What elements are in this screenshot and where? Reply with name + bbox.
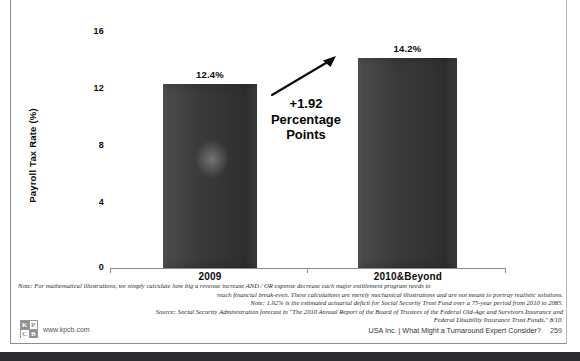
footer-page-number: 259 (550, 326, 562, 335)
y-tick-label-12: 12 (78, 83, 104, 93)
footer-brand[interactable]: K P C B www.kpcb.com (20, 320, 90, 338)
x-category-label-2009: 2009 (160, 271, 260, 282)
x-axis-tick-left (110, 268, 111, 273)
x-axis-tick-middle (307, 268, 308, 273)
kpcb-logo-icon: K P C B (20, 320, 38, 338)
footer-url-link[interactable]: www.kpcb.com (43, 326, 90, 333)
bar-value-2009: 12.4% (163, 69, 257, 80)
y-tick-label-4: 4 (78, 197, 104, 207)
footnote-line-5: Federal Disability Insurance Trust Funds… (18, 316, 563, 325)
delta-callout-line2: Percentage (252, 112, 360, 128)
delta-callout: +1.92 Percentage Points (252, 96, 360, 143)
bottom-band (0, 352, 580, 361)
y-tick-label-8: 8 (78, 140, 104, 150)
kpcb-logo-cell-k: K (21, 321, 29, 329)
footnotes: Note: For mathematical illustrations, we… (18, 282, 563, 325)
bar-gloss-highlight (195, 140, 229, 178)
kpcb-logo-cell-b: B (30, 330, 38, 338)
bar-2010-and-beyond[interactable] (358, 58, 457, 268)
x-axis-line (110, 268, 506, 269)
bar-value-2010-and-beyond: 14.2% (358, 43, 457, 54)
footnote-line-2: reach financial break-even. These calcul… (18, 291, 563, 300)
y-tick-label-0: 0 (78, 262, 104, 272)
x-category-label-2010-and-beyond: 2010&Beyond (352, 271, 464, 282)
y-axis-title: Payroll Tax Rate (%) (27, 86, 38, 226)
kpcb-logo-cell-c: C (21, 330, 29, 338)
x-axis-tick-right (505, 268, 506, 273)
footnote-line-3: Note: 1.92% is the estimated actuarial d… (18, 299, 563, 308)
y-tick-label-16: 16 (78, 26, 104, 36)
footer-deck-title: USA Inc. | What Might a Turnaround Exper… (369, 326, 541, 335)
up-right-arrow-icon (268, 52, 342, 100)
footnote-line-1: Note: For mathematical illustrations, we… (18, 282, 563, 291)
bar-2009[interactable] (163, 84, 257, 268)
delta-callout-line3: Points (252, 127, 360, 143)
footnote-line-4: Source: Social Security Administration f… (18, 308, 563, 317)
delta-callout-line1: +1.92 (252, 96, 360, 112)
footer-deck-info: USA Inc. | What Might a Turnaround Exper… (369, 326, 562, 335)
kpcb-logo-cell-p: P (30, 321, 38, 329)
